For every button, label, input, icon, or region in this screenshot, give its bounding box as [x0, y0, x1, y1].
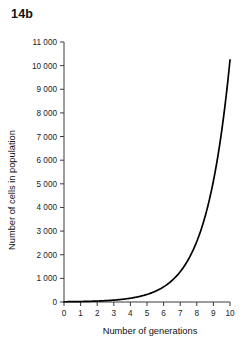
- y-tick-label: 10 000: [32, 62, 57, 71]
- growth-curve: [64, 60, 230, 302]
- y-tick-label: 9 000: [37, 85, 58, 94]
- y-tick-label: 8 000: [37, 109, 58, 118]
- y-tick-label: 7 000: [37, 133, 58, 142]
- x-tick-label: 4: [128, 309, 133, 318]
- y-tick-label: 5 000: [37, 180, 58, 189]
- data-series-group: [64, 60, 230, 302]
- x-tick-label: 9: [211, 309, 216, 318]
- y-tick-label: 0: [52, 298, 57, 307]
- x-tick-label: 6: [161, 309, 166, 318]
- y-tick-label: 1 000: [37, 274, 58, 283]
- y-tick-label: 2 000: [37, 251, 58, 260]
- x-tick-label: 1: [78, 309, 83, 318]
- y-tick-label: 6 000: [37, 156, 58, 165]
- x-tick-label: 7: [178, 309, 183, 318]
- y-axis-ticks: 01 0002 0003 0004 0005 0006 0007 0008 00…: [32, 38, 64, 307]
- y-axis-title: Number of cells in population: [7, 130, 17, 250]
- x-tick-label: 0: [62, 309, 67, 318]
- x-tick-label: 10: [225, 309, 235, 318]
- y-tick-label: 4 000: [37, 203, 58, 212]
- x-tick-label: 8: [195, 309, 200, 318]
- exponential-growth-chart: 01 0002 0003 0004 0005 0006 0007 0008 00…: [0, 0, 250, 347]
- y-tick-label: 11 000: [33, 38, 58, 47]
- x-tick-label: 2: [95, 309, 100, 318]
- x-tick-label: 5: [145, 309, 150, 318]
- x-tick-label: 3: [112, 309, 117, 318]
- x-axis-ticks: 012345678910: [62, 302, 235, 318]
- axes-group: [64, 42, 230, 302]
- y-tick-label: 3 000: [37, 227, 58, 236]
- x-axis-title: Number of generations: [103, 326, 198, 336]
- figure-container: 14b 01 0002 0003 0004 0005 0006 0007 000…: [0, 0, 250, 347]
